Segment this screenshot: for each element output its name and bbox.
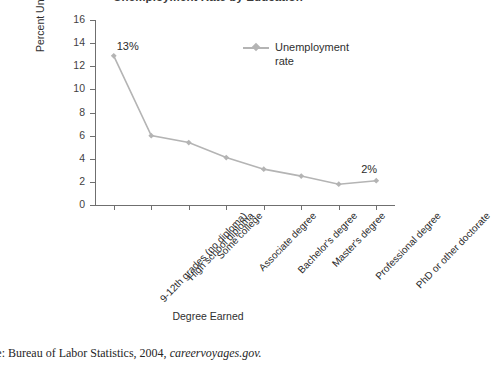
source-note-url: careervoyages.gov. <box>170 346 262 360</box>
data-point-marker <box>373 178 379 184</box>
data-point-label: 2% <box>361 163 377 175</box>
source-note: urce: Bureau of Labor Statistics, 2004, … <box>0 346 262 361</box>
data-point-marker <box>298 173 304 179</box>
legend-label-line1: Unemployment <box>275 41 371 55</box>
legend-label: Unemployment rate <box>275 41 371 68</box>
legend-label-line2: rate <box>275 55 371 69</box>
data-point-marker <box>148 133 154 139</box>
x-axis-title: Degree Earned <box>0 310 416 322</box>
unemployment-rate-markers <box>111 53 379 187</box>
data-point-marker <box>223 155 229 161</box>
legend-line-marker-icon <box>243 41 269 54</box>
data-point-marker <box>261 166 267 172</box>
unemployment-rate-line <box>114 56 377 184</box>
data-point-marker <box>186 140 192 146</box>
source-note-text: urce: Bureau of Labor Statistics, 2004, <box>0 346 170 360</box>
chart-legend: Unemployment rate <box>243 41 371 68</box>
data-point-label: 13% <box>117 40 139 52</box>
data-point-marker <box>336 181 342 187</box>
data-point-marker <box>111 53 117 59</box>
